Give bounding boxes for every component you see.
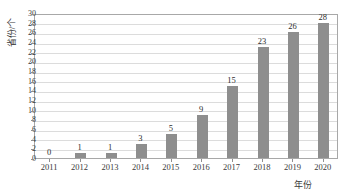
- x-tick-mark: [262, 159, 263, 162]
- bar-value-label: 26: [277, 22, 307, 31]
- bar-value-label: 28: [308, 13, 338, 22]
- plot-area: [34, 14, 338, 159]
- bar: [136, 144, 147, 159]
- y-tick-mark: [31, 14, 34, 15]
- x-tick-mark: [323, 159, 324, 162]
- bar: [197, 115, 208, 159]
- x-tick-mark: [232, 159, 233, 162]
- y-axis-title: 省份/个: [5, 5, 18, 61]
- y-tick-mark: [31, 33, 34, 34]
- x-tick-label: 2015: [154, 163, 188, 172]
- bar: [318, 23, 329, 158]
- bar-value-label: 9: [186, 105, 216, 114]
- y-tick-mark: [31, 140, 34, 141]
- bar-value-label: 1: [95, 143, 125, 152]
- y-tick-mark: [31, 111, 34, 112]
- y-tick-mark: [31, 159, 34, 160]
- x-tick-label: 2011: [32, 163, 66, 172]
- bar-value-label: 23: [247, 37, 277, 46]
- y-tick-mark: [31, 62, 34, 63]
- bar-value-label: 1: [65, 143, 95, 152]
- bar: [258, 47, 269, 158]
- y-tick-mark: [31, 91, 34, 92]
- x-tick-mark: [201, 159, 202, 162]
- bar-value-label: 15: [217, 76, 247, 85]
- x-axis-title: 年份: [294, 178, 312, 191]
- bar: [227, 86, 238, 159]
- bar-value-label: 5: [156, 124, 186, 133]
- x-tick-mark: [140, 159, 141, 162]
- bar-chart: 省份/个 年份 024681012141618202224262830 2011…: [0, 0, 348, 196]
- x-tick-label: 2018: [245, 163, 279, 172]
- x-tick-label: 2020: [306, 163, 340, 172]
- y-tick-mark: [31, 120, 34, 121]
- bar: [75, 153, 86, 158]
- y-tick-mark: [31, 24, 34, 25]
- x-tick-label: 2014: [123, 163, 157, 172]
- y-tick-mark: [31, 43, 34, 44]
- x-tick-mark: [49, 159, 50, 162]
- x-tick-label: 2013: [93, 163, 127, 172]
- x-tick-mark: [110, 159, 111, 162]
- y-tick-mark: [31, 130, 34, 131]
- x-tick-label: 2012: [63, 163, 97, 172]
- x-tick-mark: [80, 159, 81, 162]
- bar-value-label: 3: [125, 134, 155, 143]
- x-tick-mark: [171, 159, 172, 162]
- bar: [288, 32, 299, 158]
- y-tick-mark: [31, 72, 34, 73]
- bar: [166, 134, 177, 158]
- x-tick-mark: [292, 159, 293, 162]
- y-tick-mark: [31, 82, 34, 83]
- x-tick-label: 2016: [184, 163, 218, 172]
- y-tick-mark: [31, 53, 34, 54]
- bar-value-label: 0: [34, 148, 64, 157]
- x-tick-label: 2019: [275, 163, 309, 172]
- x-tick-label: 2017: [215, 163, 249, 172]
- y-tick-mark: [31, 101, 34, 102]
- bar: [106, 153, 117, 158]
